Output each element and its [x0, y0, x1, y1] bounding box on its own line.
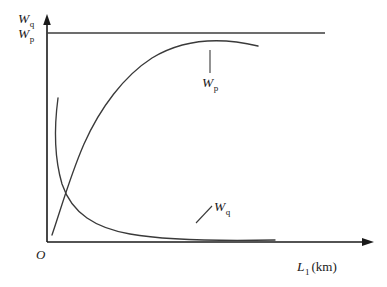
- wq-callout-leader-line: [196, 206, 212, 223]
- y-axis-label-subscript: q: [30, 19, 35, 29]
- wp-asymptote-label-subscript: p: [30, 34, 35, 44]
- wp-curve-label: Wp: [202, 75, 219, 93]
- x-axis-arrow-icon: [362, 238, 374, 246]
- series-line-wp: [52, 41, 258, 235]
- wp-curve-label-subscript: p: [214, 83, 219, 93]
- chart-canvas: Wq Wp O L1(km) Wp Wq: [0, 0, 387, 287]
- wq-curve-label-subscript: q: [226, 207, 231, 217]
- x-axis-label-subscript: 1: [305, 267, 310, 277]
- x-axis-unit: (km): [312, 259, 337, 274]
- y-axis-arrow-icon: [43, 14, 51, 25]
- series-line-wq: [56, 98, 275, 240]
- wq-curve-label: Wq: [214, 199, 231, 217]
- x-axis-label-main: L: [296, 259, 305, 274]
- origin-label: O: [36, 247, 46, 262]
- x-axis-label: L1(km): [296, 259, 337, 277]
- chart-figure: Wq Wp O L1(km) Wp Wq: [0, 0, 387, 287]
